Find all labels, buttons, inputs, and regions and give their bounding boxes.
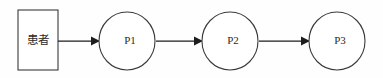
node-patient[interactable]: 患者 xyxy=(18,10,58,70)
edge-p2-to-p3 xyxy=(259,37,310,46)
node-p3[interactable]: P3 xyxy=(309,12,365,70)
edge-p1-to-p2 xyxy=(156,37,203,46)
flow-diagram-svg: 患者 P1 P2 P3 xyxy=(0,0,383,78)
p1-label: P1 xyxy=(124,34,136,46)
patient-label: 患者 xyxy=(27,34,50,46)
node-p2[interactable]: P2 xyxy=(202,12,258,70)
p2-label: P2 xyxy=(227,34,239,46)
edge-patient-to-p1 xyxy=(58,37,100,46)
node-p1[interactable]: P1 xyxy=(99,12,155,70)
flow-diagram-canvas: 患者 P1 P2 P3 xyxy=(0,0,383,78)
p3-label: P3 xyxy=(334,34,346,46)
